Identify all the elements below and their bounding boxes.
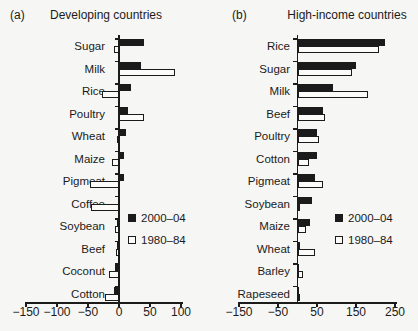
- y-axis-tick: [293, 218, 297, 219]
- bar-1980-84: [112, 159, 119, 166]
- bar-1980-84: [298, 136, 319, 143]
- category-label: Milk: [27, 62, 105, 76]
- y-axis-tick: [115, 106, 119, 107]
- bar-1980-84: [298, 181, 323, 188]
- bar-2000-04: [298, 39, 386, 46]
- category-label: Sugar: [212, 62, 290, 76]
- legend-swatch-2000-04: [128, 214, 136, 222]
- legend-label-2000-04: 2000–04: [141, 212, 186, 225]
- bar-2000-04: [298, 129, 318, 136]
- y-axis-tick: [115, 128, 119, 129]
- category-label: Maize: [27, 152, 105, 166]
- bar-2000-04: [298, 197, 313, 204]
- bar-1980-84: [114, 46, 119, 53]
- bar-1980-84: [298, 294, 300, 301]
- category-label: Sugar: [27, 39, 105, 53]
- x-tick-label: −50: [256, 306, 300, 319]
- panel-developing-countries: (a) Developing countries −150−100−500501…: [0, 0, 209, 331]
- x-axis: [26, 302, 183, 304]
- y-axis-tick: [293, 173, 297, 174]
- category-label: Beef: [27, 242, 105, 256]
- panel-letter-b: (b): [232, 8, 247, 22]
- y-axis-tick: [115, 38, 119, 39]
- panel-title-a: Developing countries: [50, 8, 162, 22]
- bar-2000-04: [298, 264, 299, 271]
- bar-2000-04: [119, 39, 144, 46]
- bar-1980-84: [119, 114, 144, 121]
- legend-label-2000-04: 2000–04: [348, 212, 393, 225]
- category-label: Maize: [212, 219, 290, 233]
- y-axis-tick: [293, 83, 297, 84]
- category-label: Pigmeat: [212, 174, 290, 188]
- bar-1980-84: [298, 114, 325, 121]
- bar-2000-04: [119, 62, 141, 69]
- x-tick-label: 50: [295, 306, 339, 319]
- panel-letter-a: (a): [10, 8, 25, 22]
- bar-2000-04: [298, 107, 323, 114]
- bar-1980-84: [90, 181, 119, 188]
- bar-1980-84: [298, 204, 300, 211]
- bar-2000-04: [119, 129, 126, 136]
- category-label: Soybean: [212, 197, 290, 211]
- legend-label-1980-84: 1980–84: [141, 234, 186, 247]
- y-axis-tick: [115, 83, 119, 84]
- bar-1980-84: [116, 249, 119, 256]
- y-axis-tick: [115, 151, 119, 152]
- legend-swatch-2000-04: [335, 214, 343, 222]
- category-label: Rice: [212, 39, 290, 53]
- bar-1980-84: [298, 271, 303, 278]
- category-label: Cotton: [27, 287, 105, 301]
- category-label: Coconut: [27, 264, 105, 278]
- bar-2000-04: [119, 152, 124, 159]
- bar-2000-04: [298, 152, 318, 159]
- y-axis-tick: [293, 241, 297, 242]
- x-tick-label: −150: [217, 306, 261, 319]
- y-axis-tick: [293, 263, 297, 264]
- bar-1980-84: [298, 249, 316, 256]
- legend-swatch-1980-84: [128, 236, 136, 244]
- bar-2000-04: [117, 219, 119, 226]
- y-axis-tick: [115, 173, 119, 174]
- bar-1980-84: [298, 69, 353, 76]
- bar-2000-04: [298, 84, 333, 91]
- legend-swatch-1980-84: [335, 236, 343, 244]
- bar-1980-84: [298, 46, 380, 53]
- bar-2000-04: [118, 197, 119, 204]
- bar-2000-04: [115, 264, 119, 271]
- category-label: Rice: [27, 84, 105, 98]
- y-axis-tick: [293, 196, 297, 197]
- bar-2000-04: [119, 107, 128, 114]
- y-axis-tick: [293, 61, 297, 62]
- bar-1980-84: [115, 226, 119, 233]
- x-tick-label: 250: [373, 306, 417, 319]
- bar-2000-04: [298, 287, 299, 294]
- category-label: Wheat: [212, 242, 290, 256]
- y-axis-tick: [293, 106, 297, 107]
- x-axis: [239, 302, 397, 304]
- legend-label-1980-84: 1980–84: [348, 234, 393, 247]
- bar-1980-84: [102, 91, 119, 98]
- category-label: Beef: [212, 107, 290, 121]
- panel-high-income-countries: (b) High-income countries −150−505015025…: [209, 0, 418, 331]
- category-label: Milk: [212, 84, 290, 98]
- bar-2000-04: [114, 287, 119, 294]
- y-axis-tick: [293, 286, 297, 287]
- category-label: Barley: [212, 264, 290, 278]
- bar-2000-04: [119, 84, 131, 91]
- bar-2000-04: [298, 219, 310, 226]
- bar-1980-84: [91, 204, 119, 211]
- bar-2000-04: [298, 242, 300, 249]
- category-label: Poultry: [212, 129, 290, 143]
- category-label: Poultry: [27, 107, 105, 121]
- y-axis-tick: [293, 151, 297, 152]
- x-tick-label: 150: [334, 306, 378, 319]
- y-axis-tick: [293, 128, 297, 129]
- figure: (a) Developing countries −150−100−500501…: [0, 0, 418, 331]
- x-tick-label: 100: [159, 306, 203, 319]
- bar-2000-04: [298, 174, 316, 181]
- y-axis-tick: [115, 61, 119, 62]
- bar-1980-84: [117, 136, 119, 143]
- category-label: Rapeseed: [212, 287, 290, 301]
- bar-1980-84: [298, 159, 310, 166]
- bar-1980-84: [109, 271, 119, 278]
